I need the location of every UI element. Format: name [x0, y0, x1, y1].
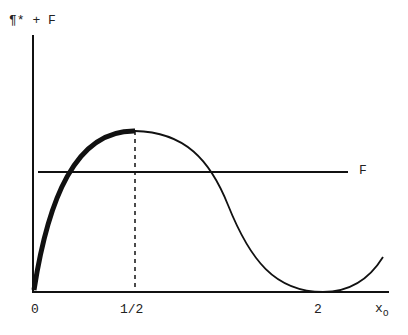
- plot-area: [0, 0, 408, 335]
- x-axis-label: xo: [375, 301, 389, 319]
- diagram: ¶* + F F 0 1/2 2 xo: [0, 0, 408, 335]
- x-axis-label-main: x: [375, 301, 383, 316]
- y-axis-label: ¶* + F: [9, 13, 56, 28]
- tick-2: 2: [314, 302, 322, 317]
- tick-half: 1/2: [120, 302, 143, 317]
- bold-curve-segment: [34, 131, 135, 290]
- f-line-label: F: [359, 163, 367, 178]
- tick-0: 0: [31, 302, 39, 317]
- x-axis-label-sub: o: [383, 308, 389, 319]
